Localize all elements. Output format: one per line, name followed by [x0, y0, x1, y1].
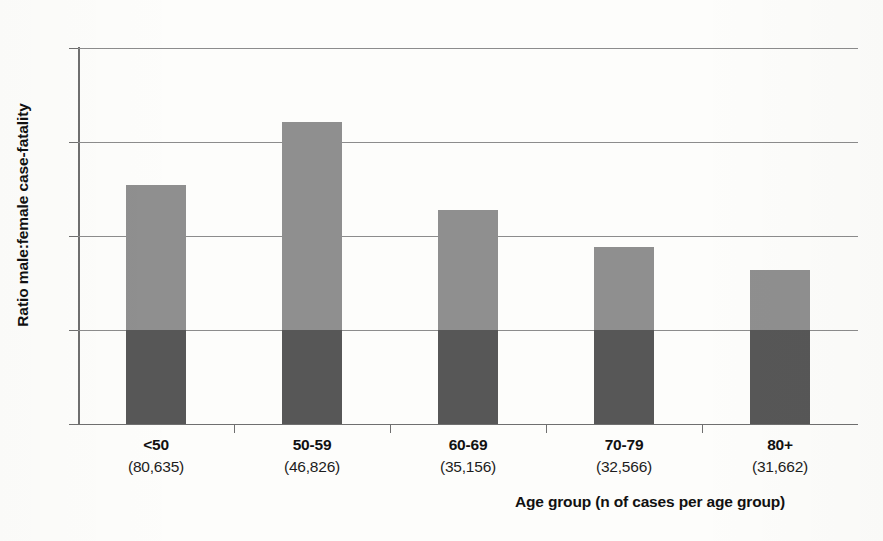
- y-tick-mark: [69, 330, 78, 331]
- x-category-label-70-79: 70-79(32,566): [544, 434, 704, 478]
- x-axis-title: Age group (n of cases per age group): [430, 493, 870, 511]
- bar-segment-upper: [438, 210, 498, 330]
- gridline-3: [78, 142, 858, 143]
- x-category-label-<50: <50(80,635): [76, 434, 236, 478]
- category-case-count: (31,662): [700, 456, 860, 478]
- category-case-count: (80,635): [76, 456, 236, 478]
- bar-segment-lower: [282, 330, 342, 424]
- x-axis-tick: [234, 424, 235, 433]
- category-name: 60-69: [388, 434, 548, 456]
- x-category-label-60-69: 60-69(35,156): [388, 434, 548, 478]
- bar-segment-upper: [594, 247, 654, 330]
- bar-50-59[interactable]: [282, 122, 342, 424]
- category-case-count: (46,826): [232, 456, 392, 478]
- bar-segment-upper: [126, 185, 186, 330]
- bar-segment-lower: [594, 330, 654, 424]
- x-axis-tick: [390, 424, 391, 433]
- bar-70-79[interactable]: [594, 247, 654, 424]
- y-tick-mark: [69, 142, 78, 143]
- category-name: 80+: [700, 434, 860, 456]
- y-tick-mark: [69, 424, 78, 425]
- category-case-count: (32,566): [544, 456, 704, 478]
- bar-segment-upper: [750, 270, 810, 330]
- category-name: <50: [76, 434, 236, 456]
- bar-<50[interactable]: [126, 185, 186, 424]
- x-axis-tick: [546, 424, 547, 433]
- bar-chart-figure: Ratio male:female case-fatality Age grou…: [0, 0, 883, 541]
- bar-segment-lower: [126, 330, 186, 424]
- gridline-4: [78, 48, 858, 49]
- plot-area: 01234: [78, 48, 858, 424]
- bar-60-69[interactable]: [438, 210, 498, 424]
- category-name: 70-79: [544, 434, 704, 456]
- gridline-0: [78, 424, 858, 425]
- bar-segment-upper: [282, 122, 342, 330]
- y-tick-mark: [69, 236, 78, 237]
- x-category-label-80+: 80+(31,662): [700, 434, 860, 478]
- y-tick-mark: [69, 48, 78, 49]
- bar-80+[interactable]: [750, 270, 810, 424]
- bar-segment-lower: [750, 330, 810, 424]
- x-category-label-50-59: 50-59(46,826): [232, 434, 392, 478]
- category-case-count: (35,156): [388, 456, 548, 478]
- category-name: 50-59: [232, 434, 392, 456]
- y-axis-title: Ratio male:female case-fatality: [14, 0, 42, 430]
- x-axis-tick: [702, 424, 703, 433]
- bar-segment-lower: [438, 330, 498, 424]
